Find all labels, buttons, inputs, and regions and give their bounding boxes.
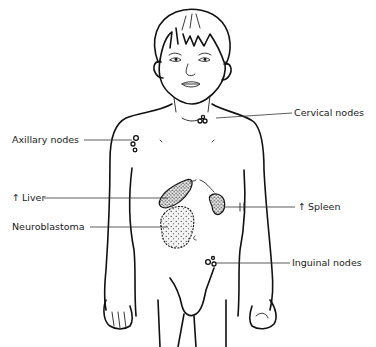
label-inguinal-nodes: Inguinal nodes xyxy=(292,257,362,268)
spleen-up-arrow-icon: ↑ xyxy=(298,201,306,212)
cervical-node-cluster xyxy=(198,115,207,123)
liver-shape xyxy=(159,179,192,208)
inguinal-node-cluster xyxy=(206,257,216,267)
spleen-shape xyxy=(209,194,225,215)
label-cervical-nodes: Cervical nodes xyxy=(294,107,364,118)
label-neuroblastoma: Neuroblastoma xyxy=(12,221,85,232)
label-axillary-nodes: Axillary nodes xyxy=(12,134,79,145)
anatomy-diagram: Cervical nodes Axillary nodes ↑ Liver ↑ … xyxy=(0,0,376,347)
axillary-node-cluster xyxy=(131,136,138,152)
organs xyxy=(159,179,225,248)
label-liver: Liver xyxy=(22,192,45,203)
label-spleen: Spleen xyxy=(308,201,340,212)
liver-up-arrow-icon: ↑ xyxy=(12,192,20,203)
child-head xyxy=(154,9,231,104)
